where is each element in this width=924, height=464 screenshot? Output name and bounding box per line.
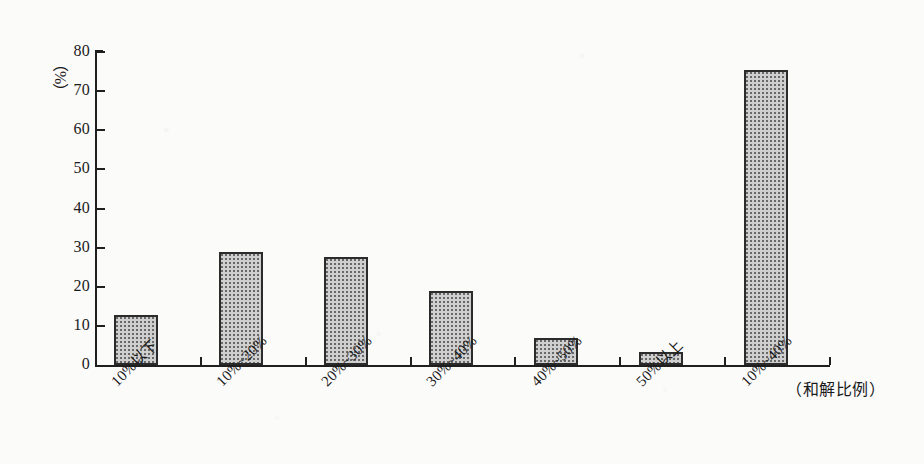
y-axis-tick-label: 80 xyxy=(56,43,90,59)
y-axis-tick-label: 50 xyxy=(56,160,90,176)
y-axis-tick xyxy=(97,325,105,327)
x-axis-tick xyxy=(724,357,726,365)
y-axis-tick xyxy=(97,208,105,210)
x-axis-tick xyxy=(410,357,412,365)
bar xyxy=(744,70,788,365)
y-axis-tick xyxy=(97,90,105,92)
y-axis-tick xyxy=(97,286,105,288)
y-axis-tick xyxy=(97,247,105,249)
y-axis-tick-label: 70 xyxy=(56,82,90,98)
x-axis-tick xyxy=(514,357,516,365)
x-axis-tick xyxy=(200,357,202,365)
y-axis-tick-label: 10 xyxy=(56,317,90,333)
x-axis-tick xyxy=(829,357,831,365)
y-axis-tick-label: 40 xyxy=(56,200,90,216)
y-axis-tick-labels: 01020304050607080 xyxy=(52,0,90,464)
x-axis-line xyxy=(95,365,830,367)
chart-page: （%） 01020304050607080 10%以下10%~20%20%~30… xyxy=(0,0,924,464)
y-axis-tick xyxy=(97,129,105,131)
x-axis-title: （和解比例） xyxy=(786,381,885,399)
x-axis-tick xyxy=(305,357,307,365)
x-axis-tick xyxy=(619,357,621,365)
y-axis-tick-label: 20 xyxy=(56,278,90,294)
y-axis-tick xyxy=(97,168,105,170)
y-axis-tick-label: 0 xyxy=(56,356,90,372)
y-axis-tick xyxy=(97,51,105,53)
y-axis-tick-label: 30 xyxy=(56,239,90,255)
y-axis-tick-label: 60 xyxy=(56,121,90,137)
